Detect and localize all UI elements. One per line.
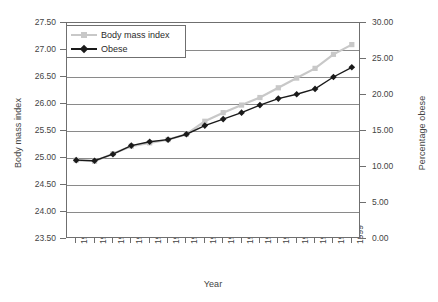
- x-axis-title: Year: [66, 279, 360, 289]
- legend-marker: [81, 32, 87, 38]
- data-point: [239, 102, 244, 107]
- legend-label-obese: Obese: [101, 43, 128, 55]
- legend-swatch-bmi: [71, 29, 97, 41]
- data-point: [238, 109, 245, 116]
- data-point: [220, 116, 227, 123]
- y-axis-left-tick-label: 24.00: [22, 206, 56, 216]
- data-point: [276, 85, 281, 90]
- y-axis-right-tick-label: 30.00: [372, 17, 406, 27]
- y-axis-right-tick-label: 10.00: [372, 161, 406, 171]
- data-point: [331, 52, 336, 57]
- y-axis-left-tick-label: 27.00: [22, 44, 56, 54]
- y-axis-left-tick-label: 24.50: [22, 179, 56, 189]
- y-axis-left-tick-label: 23.50: [22, 233, 56, 243]
- y-axis-right-tick-label: 20.00: [372, 89, 406, 99]
- legend-item-bmi: Body mass index: [71, 28, 181, 42]
- series-line-obese: [76, 67, 352, 160]
- y-axis-right-title: Percentage obese: [417, 73, 427, 193]
- y-axis-right-tick-label: 5.00: [372, 197, 406, 207]
- data-point: [312, 66, 317, 71]
- data-point: [349, 42, 354, 47]
- bmi-obesity-line-chart: Body mass index Percentage obese Year 23…: [0, 0, 438, 302]
- y-axis-right-tick-label: 15.00: [372, 125, 406, 135]
- series-line-body-mass-index: [76, 45, 352, 162]
- y-axis-left-tick-label: 25.50: [22, 125, 56, 135]
- legend-swatch-obese: [71, 43, 97, 55]
- data-point: [257, 95, 262, 100]
- data-point: [293, 91, 300, 98]
- y-axis-left-tick-label: 26.50: [22, 71, 56, 81]
- data-point: [221, 110, 226, 115]
- data-point: [349, 64, 356, 71]
- legend-item-obese: Obese: [71, 42, 181, 56]
- legend-marker: [80, 45, 88, 53]
- y-axis-left-tickmark: [60, 238, 66, 239]
- chart-legend: Body mass index Obese: [66, 25, 186, 58]
- y-axis-left-tick-label: 26.00: [22, 98, 56, 108]
- data-point: [257, 102, 264, 109]
- data-point: [275, 95, 282, 102]
- y-axis-right-tick-label: 0.00: [372, 233, 406, 243]
- y-axis-right-tick-label: 25.00: [372, 53, 406, 63]
- y-axis-left-tick-label: 27.50: [22, 17, 56, 27]
- y-axis-left-tick-label: 25.00: [22, 152, 56, 162]
- legend-label-bmi: Body mass index: [101, 29, 170, 41]
- data-point: [294, 75, 299, 80]
